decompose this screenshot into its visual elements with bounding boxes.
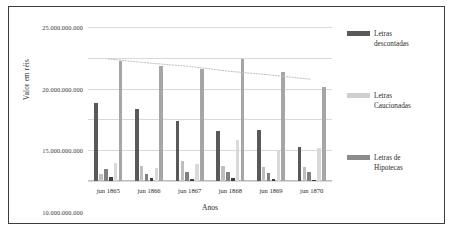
bar [109, 177, 113, 181]
y-axis-tick-label: 10.000.000.000 [42, 208, 83, 215]
bar-group [129, 27, 170, 181]
bar [195, 164, 199, 181]
y-axis-tick-label: 15.000.000.000 [42, 147, 83, 154]
legend-item[interactable]: Letras Caucionadas [347, 91, 411, 111]
bar [181, 161, 185, 181]
bar-group [291, 27, 332, 181]
legend-label: Letras descontadas [374, 29, 409, 49]
bar-group [251, 27, 292, 181]
bar [281, 72, 285, 181]
bar [267, 173, 271, 181]
bar-group [210, 27, 251, 181]
bar [277, 150, 281, 181]
bar [99, 174, 103, 181]
x-axis-title: Anos [88, 203, 332, 212]
legend-label: Letras de Hipotecas [374, 153, 403, 173]
x-axis-tick-label: jun 1866 [129, 187, 170, 194]
bar [257, 130, 261, 181]
plot-area: 05.000.000.00010.000.000.00015.000.000.0… [88, 27, 332, 181]
legend-swatch-icon [347, 93, 370, 98]
bar [241, 59, 245, 181]
bar [150, 178, 154, 181]
x-axis-tick-label: jun 1869 [251, 187, 292, 194]
x-axis-tick-label: jun 1868 [210, 187, 251, 194]
bar [236, 140, 240, 181]
x-axis-tick-label: jun 1865 [88, 187, 129, 194]
bar [312, 180, 316, 181]
bar [155, 168, 159, 181]
y-axis-title: Valor em réis [23, 59, 31, 100]
bar [262, 167, 266, 181]
legend-item[interactable]: Letras de Hipotecas [347, 153, 403, 173]
x-axis-tick-label: jun 1867 [169, 187, 210, 194]
bar [159, 66, 163, 181]
legend-item[interactable]: Letras descontadas [347, 29, 409, 49]
bar [145, 174, 149, 181]
bar [200, 69, 204, 181]
bar [226, 172, 230, 181]
bar [140, 166, 144, 181]
bar [216, 131, 220, 181]
gridline: 0 [88, 181, 332, 182]
bar [104, 169, 108, 181]
bar [231, 178, 235, 181]
bar-groups [88, 27, 332, 181]
bar [119, 61, 123, 181]
bar [221, 166, 225, 181]
bar [185, 172, 189, 181]
bar [322, 87, 326, 181]
bar [190, 179, 194, 181]
bar [135, 109, 139, 181]
x-axis-tick-label: jun 1870 [291, 187, 332, 194]
bar [307, 172, 311, 181]
bar [272, 179, 276, 181]
bar [303, 167, 307, 181]
x-axis-tick-labels: jun 1865jun 1866jun 1867jun 1868jun 1869… [88, 187, 332, 194]
bar-group [88, 27, 129, 181]
legend-label: Letras Caucionadas [374, 91, 411, 111]
bar-chart: Valor em réis 05.000.000.00010.000.000.0… [9, 7, 444, 223]
legend-swatch-icon [347, 155, 370, 160]
bar [317, 148, 321, 181]
chart-frame: Valor em réis 05.000.000.00010.000.000.0… [8, 6, 445, 224]
bar [94, 103, 98, 181]
y-axis-tick-label: 25.000.000.000 [42, 24, 83, 31]
bar-group [169, 27, 210, 181]
bar [176, 121, 180, 181]
bar [114, 163, 118, 181]
y-axis-tick-label: 20.000.000.000 [42, 85, 83, 92]
legend-swatch-icon [347, 31, 370, 36]
bar [298, 147, 302, 181]
